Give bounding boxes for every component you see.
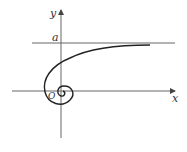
origin-label: O: [48, 92, 55, 101]
asymptote-label: a: [52, 32, 59, 43]
y-axis-label: y: [50, 8, 56, 19]
spiral-curve: [44, 45, 150, 104]
x-axis-label: x: [172, 93, 178, 104]
diagram-canvas: [0, 0, 187, 152]
